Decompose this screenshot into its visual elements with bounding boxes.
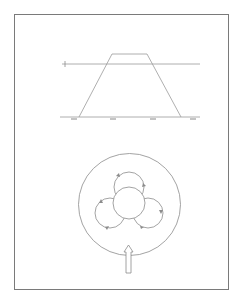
trapezoid-profile xyxy=(79,54,181,117)
arrowhead-icon xyxy=(99,199,103,203)
tick-label-3 xyxy=(150,118,156,120)
tick-label-2 xyxy=(110,118,116,120)
top-panel xyxy=(60,54,200,117)
arrowhead-icon xyxy=(159,210,163,214)
inflow-arrow-icon xyxy=(124,245,133,273)
diagram-canvas xyxy=(0,0,243,306)
bottom-panel xyxy=(79,154,181,274)
arrowhead-icon xyxy=(116,173,120,177)
tick-label-1 xyxy=(71,118,77,120)
tick-label-4 xyxy=(190,118,196,120)
central-circle xyxy=(113,187,145,219)
